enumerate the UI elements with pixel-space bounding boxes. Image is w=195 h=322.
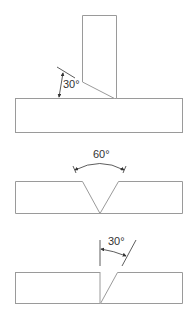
single-bevel-figure: 30° (16, 235, 183, 304)
base-plate (16, 99, 183, 133)
v-groove-figure: 60° (16, 148, 183, 214)
angle-label: 30° (108, 235, 125, 247)
angle-label: 30° (63, 78, 80, 90)
weld-diagram: 30° 60° 30° (0, 0, 195, 322)
angle-dimension-arc (101, 249, 126, 256)
t-joint-figure: 30° (16, 16, 183, 133)
angle-dimension-arc (75, 164, 124, 171)
extension-line (57, 67, 75, 78)
left-plate (16, 273, 101, 304)
right-plate (100, 182, 183, 214)
angle-label: 60° (93, 148, 110, 160)
vertical-plate-beveled (83, 16, 117, 99)
right-plate-beveled (101, 273, 183, 304)
left-plate (16, 182, 101, 214)
